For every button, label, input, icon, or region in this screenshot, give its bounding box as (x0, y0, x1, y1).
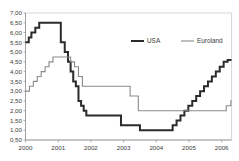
y-tick-label: 1,00 (10, 126, 23, 133)
y-tick-label: 4,00 (10, 68, 23, 75)
y-tick-label: 4,50 (10, 58, 23, 65)
interest-rate-line-chart: 0,501,001,502,002,503,003,504,004,505,00… (0, 0, 239, 161)
x-tick-label: 2005 (182, 144, 196, 151)
y-tick-label: 5,50 (10, 39, 23, 46)
legend-label-usa: USA (147, 37, 161, 44)
x-tick-label: 2006 (215, 144, 229, 151)
x-tick-label: 2004 (149, 144, 163, 151)
y-tick-label: 0,50 (10, 136, 23, 143)
y-tick-label: 1,50 (10, 117, 23, 124)
y-tick-label: 2,00 (10, 107, 23, 114)
y-tick-label: 3,50 (10, 78, 23, 85)
x-tick-label: 2000 (19, 144, 33, 151)
y-tick-label: 3,00 (10, 87, 23, 94)
x-tick-label: 2002 (84, 144, 98, 151)
y-tick-label: 7,00 (10, 9, 23, 16)
y-tick-label: 5,00 (10, 48, 23, 55)
y-tick-label: 6,00 (10, 29, 23, 36)
y-tick-label: 2,50 (10, 97, 23, 104)
chart-background (0, 0, 239, 161)
legend-label-euroland: Euroland (197, 37, 223, 44)
x-tick-label: 2001 (51, 144, 65, 151)
chart-canvas: 0,501,001,502,002,503,003,504,004,505,00… (0, 0, 239, 161)
y-tick-label: 6,50 (10, 19, 23, 26)
x-tick-label: 2003 (117, 144, 131, 151)
